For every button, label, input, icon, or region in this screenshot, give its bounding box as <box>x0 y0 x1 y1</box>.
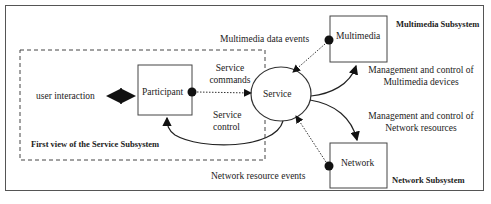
multimedia-port-dot <box>325 36 334 45</box>
service-commands-arrow <box>197 92 251 93</box>
service-commands-label-1: Service <box>208 62 252 74</box>
network-events-label: Network resource events <box>211 170 305 182</box>
mm-management-label-1: Management and control of <box>365 64 477 76</box>
service-control-label-2: control <box>213 121 240 133</box>
multimedia-events-label: Multimedia data events <box>220 33 309 45</box>
net-management-label-1: Management and control of <box>365 110 477 122</box>
net-management-label-2: Network resources <box>365 122 477 134</box>
net-management-arrow <box>310 100 357 140</box>
multimedia-events-arrow <box>293 44 325 72</box>
user-interaction-label: user interaction <box>36 90 95 102</box>
participant-port-dot <box>188 88 197 97</box>
service-subsystem-title: First view of the Service Subsystem <box>31 138 159 150</box>
service-label: Service <box>263 88 292 100</box>
network-events-arrow <box>296 116 326 162</box>
network-subsystem-title: Network Subsystem <box>392 174 465 186</box>
service-control-label-1: Service <box>213 109 242 121</box>
mm-management-arrow <box>311 66 356 96</box>
multimedia-subsystem-title: Multimedia Subsystem <box>396 18 479 30</box>
network-label: Network <box>341 157 374 169</box>
service-commands-label-2: commands <box>203 74 257 86</box>
network-port-dot <box>325 162 334 171</box>
participant-label: Participant <box>142 86 183 98</box>
multimedia-label: Multimedia <box>336 30 380 42</box>
mm-management-label-2: Multimedia devices <box>365 76 477 88</box>
